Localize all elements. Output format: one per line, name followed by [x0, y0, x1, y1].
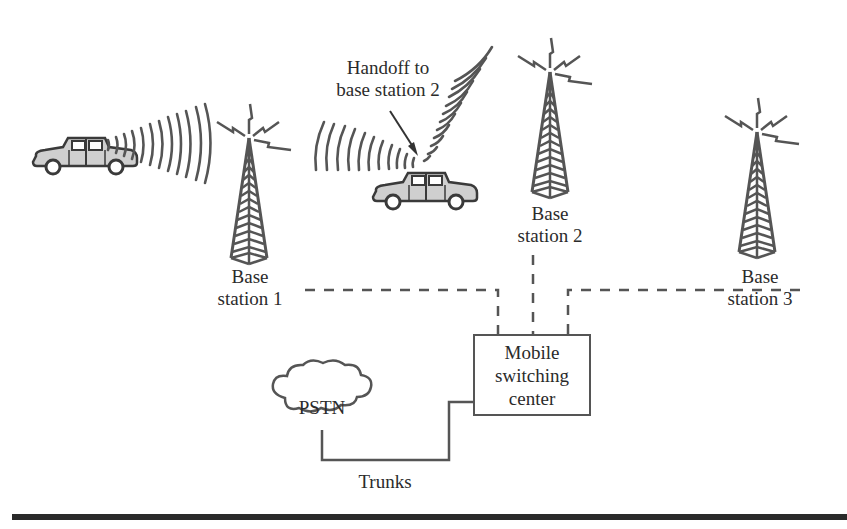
handoff-arrow-icon [390, 111, 418, 156]
base-station-1-tower-icon [217, 104, 291, 264]
msc-label-line-1: Mobile [505, 341, 560, 364]
base-station-1-label-line-2: station 1 [190, 288, 310, 310]
base-station-3-tower-icon [725, 98, 799, 258]
base-station-1-label-line-1: Base [190, 266, 310, 288]
base-station-2-label-line-2: station 2 [490, 225, 610, 247]
base-station-2-label: Base station 2 [490, 203, 610, 247]
trunks-label: Trunks [340, 471, 430, 493]
base-station-3-label-line-2: station 3 [700, 288, 820, 310]
pstn-label: PSTN [283, 397, 361, 419]
handoff-annotation-line-1: Handoff to [288, 57, 488, 79]
msc-label-line-3: center [509, 387, 555, 410]
car-2-icon [373, 173, 477, 209]
base-station-2-tower-icon [518, 38, 592, 198]
base-station-3-label-line-1: Base [700, 266, 820, 288]
car-1-icon [33, 138, 137, 174]
radio-waves-car2-bs1 [315, 122, 414, 170]
msc-label-line-2: switching [495, 364, 569, 387]
handoff-annotation-line-2: base station 2 [288, 79, 488, 101]
base-station-3-label: Base station 3 [700, 266, 820, 310]
base-station-1-label: Base station 1 [190, 266, 310, 310]
mobile-switching-center-box: Mobile switching center [473, 334, 591, 416]
base-station-2-label-line-1: Base [490, 203, 610, 225]
handoff-annotation: Handoff to base station 2 [288, 57, 488, 101]
